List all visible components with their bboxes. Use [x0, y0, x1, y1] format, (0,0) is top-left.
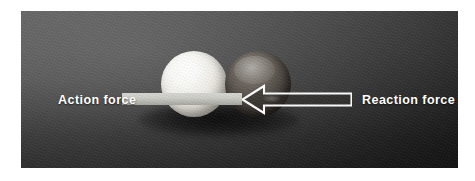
action-force-label: Action force — [58, 94, 136, 107]
physics-figure: Action force Reaction force — [0, 0, 475, 181]
action-force-arrow — [122, 93, 242, 105]
white-ball — [161, 51, 227, 117]
photo-plate: Action force Reaction force — [21, 11, 458, 168]
reaction-force-label: Reaction force — [362, 94, 455, 107]
reaction-force-arrow — [242, 83, 352, 116]
